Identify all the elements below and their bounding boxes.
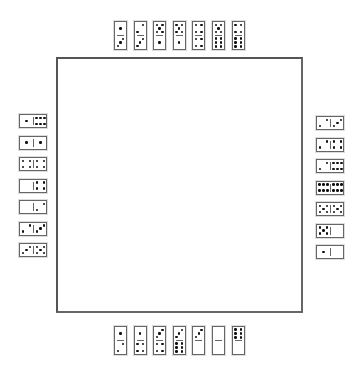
domino-tile[interactable] [19, 222, 47, 236]
pip [29, 166, 31, 168]
pip [175, 346, 177, 348]
pip [178, 332, 180, 334]
domino-half-6 [331, 160, 344, 172]
domino-half-4 [193, 22, 204, 35]
pip [332, 183, 334, 185]
domino-tile[interactable] [173, 326, 186, 355]
pip [318, 183, 320, 185]
pip [139, 332, 141, 334]
domino-tile[interactable] [316, 245, 344, 259]
domino-half-3 [20, 244, 33, 256]
domino-tile[interactable] [316, 224, 344, 238]
domino-divider [235, 35, 242, 36]
pip [36, 166, 38, 168]
pip [240, 45, 242, 47]
left-player-hand [19, 114, 47, 265]
pip [43, 160, 45, 162]
domino-half-2 [34, 201, 47, 213]
domino-tile[interactable] [19, 114, 47, 128]
domino-half-5 [154, 22, 165, 35]
domino-tile[interactable] [134, 21, 147, 50]
domino-tile[interactable] [192, 21, 205, 50]
domino-tile[interactable] [316, 138, 344, 152]
domino-tile[interactable] [232, 326, 245, 355]
pip [142, 343, 144, 345]
domino-tile[interactable] [19, 200, 47, 214]
domino-tile[interactable] [212, 21, 225, 50]
pip [122, 38, 124, 40]
domino-tile[interactable] [212, 326, 225, 355]
pip [43, 117, 45, 119]
domino-tile[interactable] [114, 326, 127, 355]
domino-tile[interactable] [134, 326, 147, 355]
pip [326, 226, 328, 228]
domino-divider [33, 203, 34, 211]
domino-tile[interactable] [114, 21, 127, 50]
pip [234, 24, 236, 26]
domino-half-3 [331, 117, 344, 129]
pip [36, 209, 38, 211]
domino-divider [137, 35, 144, 36]
domino-half-2 [115, 341, 126, 354]
domino-half-1 [135, 327, 146, 340]
pip [156, 336, 158, 338]
pip [220, 24, 222, 26]
pip [240, 24, 242, 26]
domino-half-0 [331, 246, 344, 258]
pip [340, 168, 342, 170]
domino-tile[interactable] [19, 179, 47, 193]
pip [332, 189, 334, 191]
domino-tile[interactable] [19, 157, 47, 171]
pip [117, 350, 119, 352]
domino-half-3 [34, 223, 47, 235]
pip [322, 189, 324, 191]
domino-tile[interactable] [153, 326, 166, 355]
pip [200, 329, 202, 331]
domino-tile[interactable] [316, 181, 344, 195]
pip [142, 24, 144, 26]
pip [175, 342, 177, 344]
pip [234, 41, 236, 43]
pip [119, 41, 121, 43]
domino-tile[interactable] [19, 136, 47, 150]
domino-half-5 [317, 225, 330, 237]
pip [322, 183, 324, 185]
pip [178, 27, 180, 29]
top-player-hand [114, 21, 251, 50]
domino-tile[interactable] [316, 159, 344, 173]
domino-tile[interactable] [316, 202, 344, 216]
pip [136, 45, 138, 47]
domino-tile[interactable] [316, 116, 344, 130]
domino-half-6 [233, 36, 244, 49]
pip [200, 45, 202, 47]
domino-tile[interactable] [192, 326, 205, 355]
domino-divider [176, 35, 183, 36]
domino-half-2 [20, 223, 33, 235]
pip [161, 31, 163, 33]
pip [36, 246, 38, 248]
pip [326, 119, 328, 121]
pip [234, 37, 236, 39]
domino-divider [137, 340, 144, 341]
domino-half-5 [174, 22, 185, 35]
domino-half-6 [213, 36, 224, 49]
domino-tile[interactable] [232, 21, 245, 50]
pip [340, 140, 342, 142]
pip [36, 160, 38, 162]
domino-half-0 [193, 341, 204, 354]
domino-tile[interactable] [173, 21, 186, 50]
pip [119, 27, 121, 29]
domino-half-6 [331, 182, 344, 194]
pip [22, 166, 24, 168]
domino-half-1 [174, 36, 185, 49]
pip [43, 252, 45, 254]
domino-half-2 [135, 22, 146, 35]
domino-half-1 [317, 246, 330, 258]
pip [319, 226, 321, 228]
pip [333, 205, 335, 207]
domino-tile[interactable] [19, 243, 47, 257]
pip [220, 31, 222, 33]
domino-tile[interactable] [153, 21, 166, 50]
game-board[interactable] [56, 57, 303, 313]
pip [175, 350, 177, 352]
